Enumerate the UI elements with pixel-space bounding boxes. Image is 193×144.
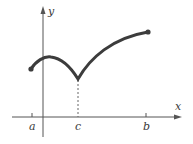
- tick-label-c: c: [75, 121, 81, 132]
- tick-label-b: b: [143, 121, 150, 132]
- x-axis-label: x: [175, 101, 181, 112]
- function-graph-figure: y x a c b: [0, 0, 193, 144]
- y-axis-label: y: [48, 6, 54, 17]
- tick-label-a: a: [29, 121, 36, 132]
- function-curve: [31, 32, 148, 79]
- x-axis-arrow-icon: [174, 115, 182, 120]
- endpoint-b-dot: [145, 29, 150, 34]
- endpoint-a-dot: [28, 66, 33, 71]
- y-axis-arrow-icon: [41, 6, 46, 14]
